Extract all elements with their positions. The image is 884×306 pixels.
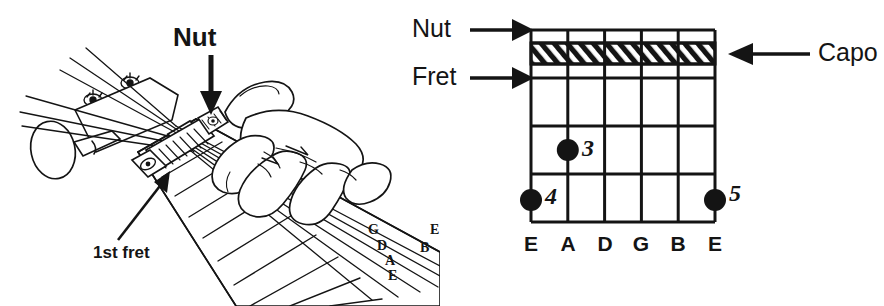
photo-nut-arrow-icon [196,55,226,115]
finger-number-4: 4 [545,183,557,210]
photo-first-fret-arrow-icon [110,165,180,245]
finger-number-3: 3 [582,135,594,162]
guitar-neck-drawing [0,0,440,306]
figure-root: Nut 1st fret G D A E E B [0,0,884,306]
open-string-label-0: E [519,232,543,256]
open-string-label-1: A [556,232,580,256]
diagram-fret-label: Fret [412,62,456,91]
chord-fretboard-diagram: Nut Fret Capo 3 4 5 E A D G B E [410,0,884,306]
open-string-label-4: B [666,232,690,256]
diagram-capo-arrow-icon [728,43,810,65]
fretboard-grid [410,0,884,306]
photo-nut-label: Nut [173,22,216,53]
finger-dot-5 [704,189,726,211]
diagram-capo-label: Capo [818,38,878,67]
photo-string-label-G: G [368,222,379,238]
guitar-neck-capo-illustration: Nut 1st fret G D A E E B [0,0,440,306]
open-string-label-5: E [703,232,727,256]
open-string-label-2: D [593,232,617,256]
photo-first-fret-label: 1st fret [93,243,150,263]
open-string-label-3: G [629,232,653,256]
diagram-nut-arrow-icon [470,19,534,41]
photo-string-label-A: A [385,253,395,269]
diagram-nut-label: Nut [412,14,451,43]
finger-number-5: 5 [729,180,741,207]
photo-string-label-E-low: E [388,268,397,284]
diagram-fret-arrow-icon [470,67,534,89]
finger-dot-3 [557,139,579,161]
photo-string-label-D: D [377,238,387,254]
finger-dot-4 [520,189,542,211]
capo-band [531,43,715,64]
